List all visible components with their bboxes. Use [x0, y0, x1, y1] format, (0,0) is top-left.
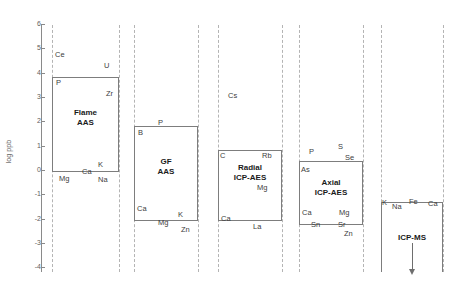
box-title-line1: GF [134, 157, 198, 167]
box-title-line2: ICP-AES [218, 173, 282, 183]
column-divider [218, 25, 219, 272]
icp-ms-arrow-head [409, 269, 415, 275]
box-title-axial-icp-aes: AxialICP-AES [299, 178, 363, 198]
y-tick-label: 3 [20, 93, 41, 101]
element-label: Zn [181, 226, 190, 234]
y-tick-label-text: 3 [27, 93, 41, 101]
box-title-line2: ICP-AES [299, 188, 363, 198]
y-tick-label-text: -4 [27, 263, 41, 271]
y-tick-label-text: -3 [27, 239, 41, 247]
element-label: Ca [137, 205, 147, 213]
y-tick-label: 1 [20, 142, 41, 150]
element-label: Sr [338, 221, 346, 229]
y-tick-label: -3 [20, 239, 41, 247]
element-label: Cs [228, 92, 237, 100]
box-title-gf-aas: GFAAS [134, 157, 198, 177]
element-label: Ca [82, 168, 92, 176]
element-label: S [338, 143, 343, 151]
box-title-line1: Axial [299, 178, 363, 188]
y-tick-label-text: 6 [27, 20, 41, 28]
column-divider [363, 25, 364, 272]
element-label: Rb [262, 152, 272, 160]
y-tick-label: -2 [20, 215, 41, 223]
y-tick-label: 0 [20, 166, 41, 174]
y-tick-mark [41, 146, 45, 147]
element-label: As [301, 166, 310, 174]
y-tick-mark [41, 267, 45, 268]
element-label: B [138, 129, 143, 137]
element-label: Ce [55, 51, 65, 59]
box-title-line1: Radial [218, 163, 282, 173]
element-label: Mg [339, 209, 349, 217]
range-box-radial-icp-aes [218, 150, 282, 221]
box-title-line2: AAS [52, 118, 119, 128]
y-tick-mark [41, 97, 45, 98]
y-tick-mark [41, 243, 45, 244]
box-title-icp-ms: ICP-MS [381, 233, 443, 243]
column-divider [119, 25, 120, 272]
y-tick-label-text: 4 [27, 69, 41, 77]
element-label: P [309, 148, 314, 156]
element-label: Ca [221, 215, 231, 223]
y-tick-mark [41, 170, 45, 171]
element-label: Mg [257, 184, 267, 192]
y-tick-mark [41, 194, 45, 195]
y-tick-label-text: 1 [27, 142, 41, 150]
element-label: La [253, 223, 261, 231]
element-label: Na [98, 176, 108, 184]
element-label: Mg [158, 219, 168, 227]
y-tick-label-text: 0 [27, 166, 41, 174]
y-tick-label: 2 [20, 117, 41, 125]
element-label: Zr [106, 90, 113, 98]
y-tick-label: 5 [20, 44, 41, 52]
column-divider [282, 25, 283, 272]
icp-ms-arrow-shaft [412, 243, 413, 269]
y-axis-line [41, 25, 42, 272]
y-tick-mark [41, 24, 45, 25]
box-title-line1: Flame [52, 108, 119, 118]
column-divider [299, 25, 300, 272]
y-tick-label-text: -2 [27, 215, 41, 223]
detection-limit-chart: log ppb 6543210-1-2-3-4 FlameAASGFAASRad… [0, 0, 451, 287]
box-title-radial-icp-aes: RadialICP-AES [218, 163, 282, 183]
y-tick-mark [41, 48, 45, 49]
element-label: P [56, 79, 61, 87]
element-label: K [178, 211, 183, 219]
box-title-line2: AAS [134, 167, 198, 177]
element-label: C [220, 152, 225, 160]
y-tick-label: -4 [20, 263, 41, 271]
element-label: Na [392, 203, 402, 211]
element-label: K [98, 161, 103, 169]
y-tick-mark [41, 121, 45, 122]
element-label: Zn [344, 230, 353, 238]
element-label: U [104, 62, 109, 70]
box-title-line1: ICP-MS [381, 233, 443, 243]
y-tick-label: 6 [20, 20, 41, 28]
y-tick-label-text: -1 [27, 190, 41, 198]
element-label: Se [345, 154, 354, 162]
element-label: Fe [409, 198, 418, 206]
y-tick-label-text: 2 [27, 117, 41, 125]
box-title-flame-aas: FlameAAS [52, 108, 119, 128]
y-tick-mark [41, 219, 45, 220]
element-label: Ca [302, 209, 312, 217]
y-axis-title: log ppb [5, 130, 12, 174]
y-tick-label: -1 [20, 190, 41, 198]
y-tick-mark [41, 73, 45, 74]
column-divider [198, 25, 199, 272]
element-label: Ca [428, 200, 438, 208]
element-label: Sn [311, 221, 320, 229]
column-divider [443, 25, 444, 272]
y-tick-label-text: 5 [27, 44, 41, 52]
y-tick-label: 4 [20, 69, 41, 77]
element-label: K [382, 199, 387, 207]
element-label: Mg [59, 175, 69, 183]
element-label: P [158, 119, 163, 127]
